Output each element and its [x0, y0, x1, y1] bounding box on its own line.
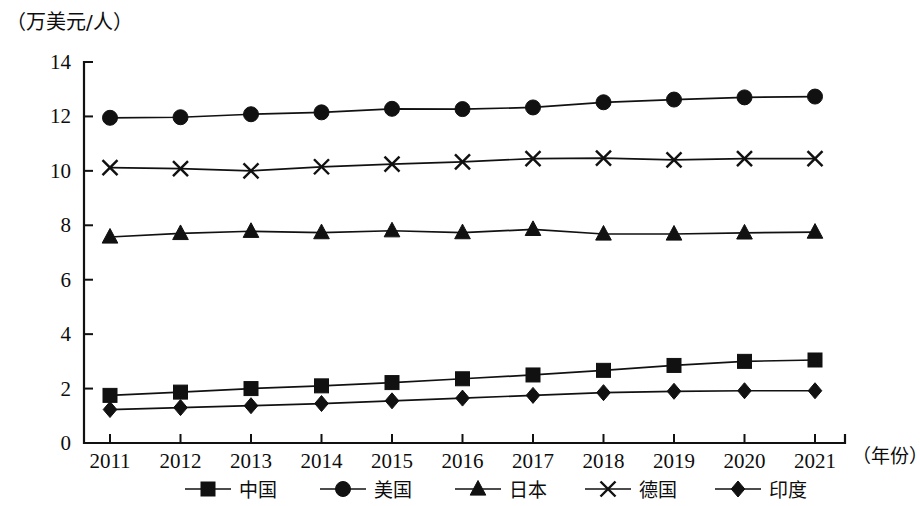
marker-triangle — [102, 228, 118, 243]
x-tick-label: 2021 — [794, 449, 836, 473]
marker-diamond — [315, 396, 329, 412]
marker-diamond — [244, 398, 258, 414]
marker-circle — [336, 482, 351, 497]
x-tick-label: 2012 — [160, 449, 202, 473]
marker-square — [315, 379, 329, 393]
marker-triangle — [666, 225, 682, 240]
x-tick-label: 2011 — [89, 449, 130, 473]
marker-square — [808, 353, 822, 367]
x-tick-label: 2016 — [442, 449, 484, 473]
marker-triangle — [525, 221, 541, 236]
legend-label: 中国 — [239, 479, 277, 501]
marker-circle — [385, 101, 400, 116]
legend-item-2[interactable]: 日本 — [455, 479, 547, 501]
marker-circle — [314, 105, 329, 120]
series-line — [110, 158, 815, 171]
marker-circle — [667, 92, 682, 107]
marker-triangle — [470, 481, 486, 496]
series-2 — [102, 221, 823, 243]
y-tick-label: 0 — [61, 431, 72, 455]
legend-label: 美国 — [374, 479, 412, 501]
marker-diamond — [385, 393, 399, 409]
marker-square — [244, 382, 258, 396]
marker-circle — [173, 110, 188, 125]
series-3 — [103, 151, 823, 179]
marker-triangle — [173, 225, 189, 240]
marker-diamond — [731, 481, 745, 497]
marker-circle — [455, 102, 470, 117]
marker-triangle — [455, 224, 471, 239]
legend-item-4[interactable]: 印度 — [715, 479, 807, 501]
marker-diamond — [103, 402, 117, 418]
chart-legend: 中国美国日本德国印度 — [185, 479, 807, 501]
series-1 — [103, 89, 823, 125]
marker-triangle — [314, 224, 330, 239]
marker-square — [667, 358, 681, 372]
legend-label: 德国 — [639, 479, 677, 501]
y-tick-label: 14 — [50, 50, 72, 74]
marker-square — [597, 363, 611, 377]
x-tick-label: 2013 — [230, 449, 272, 473]
marker-circle — [596, 95, 611, 110]
x-axis-ticks: 2011201220132014201520162017201820192020… — [89, 434, 836, 473]
legend-item-1[interactable]: 美国 — [320, 479, 412, 501]
y-tick-label: 10 — [50, 159, 71, 183]
marker-square — [201, 482, 215, 496]
legend-item-3[interactable]: 德国 — [585, 479, 677, 501]
marker-square — [385, 376, 399, 390]
marker-square — [456, 372, 470, 386]
y-axis-ticks: 02468101214 — [50, 50, 93, 455]
x-tick-label: 2020 — [724, 449, 766, 473]
marker-diamond — [526, 387, 540, 403]
x-tick-label: 2014 — [301, 449, 344, 473]
x-tick-label: 2018 — [583, 449, 625, 473]
y-tick-label: 6 — [61, 268, 72, 292]
marker-square — [738, 354, 752, 368]
marker-circle — [808, 89, 823, 104]
series-4 — [103, 383, 822, 418]
marker-square — [103, 388, 117, 402]
legend-label: 日本 — [509, 479, 547, 501]
marker-circle — [737, 90, 752, 105]
y-tick-label: 12 — [50, 104, 71, 128]
y-tick-label: 8 — [61, 213, 72, 237]
marker-triangle — [737, 224, 753, 239]
x-tick-label: 2019 — [653, 449, 695, 473]
x-tick-label: 2015 — [371, 449, 413, 473]
legend-item-0[interactable]: 中国 — [185, 479, 277, 501]
marker-circle — [244, 107, 259, 122]
marker-circle — [103, 110, 118, 125]
y-tick-label: 2 — [61, 377, 72, 401]
marker-square — [526, 368, 540, 382]
legend-label: 印度 — [769, 479, 807, 501]
marker-circle — [526, 100, 541, 115]
marker-square — [174, 385, 188, 399]
marker-diamond — [808, 383, 822, 399]
marker-diamond — [597, 385, 611, 401]
marker-triangle — [243, 223, 259, 238]
marker-diamond — [667, 383, 681, 399]
marker-diamond — [738, 383, 752, 399]
marker-triangle — [384, 222, 400, 237]
marker-triangle — [807, 224, 823, 239]
x-tick-label: 2017 — [512, 449, 554, 473]
y-tick-label: 4 — [61, 322, 72, 346]
data-series-group — [102, 89, 823, 417]
marker-diamond — [456, 390, 470, 406]
marker-diamond — [174, 400, 188, 416]
